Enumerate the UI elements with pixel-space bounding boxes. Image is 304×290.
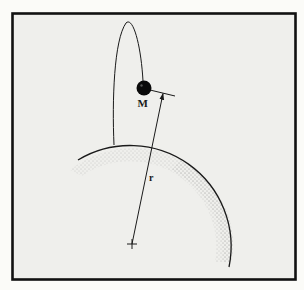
radius-label: r xyxy=(149,172,154,183)
mass-sphere xyxy=(137,81,152,96)
orbit-diagram: M r xyxy=(0,0,304,290)
diagram-frame xyxy=(13,14,296,280)
mass-highlight xyxy=(140,84,142,86)
mass-label: M xyxy=(138,97,149,109)
